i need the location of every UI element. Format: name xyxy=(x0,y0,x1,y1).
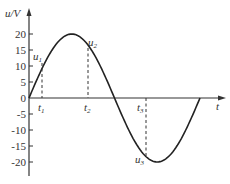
ytick-20: 20 xyxy=(15,28,27,40)
ytick-5: 5 xyxy=(21,76,27,88)
ytick-15: 15 xyxy=(15,44,27,56)
t1-label: t1 xyxy=(38,101,45,115)
origin-label: 0 xyxy=(21,92,27,104)
x-axis-arrow-icon xyxy=(218,96,226,101)
y-axis-label: u/V xyxy=(5,7,22,19)
guide-lines xyxy=(42,48,146,158)
ytick-neg10: -10 xyxy=(11,124,26,136)
t2-label: t2 xyxy=(84,101,91,115)
ytick-neg15: -15 xyxy=(11,140,26,152)
y-axis-arrow-icon xyxy=(27,8,32,16)
ytick-10: 10 xyxy=(15,60,27,72)
u1-label: u1 xyxy=(33,50,42,64)
t3-label: t3 xyxy=(137,101,144,115)
ytick-neg5: -5 xyxy=(17,108,27,120)
u2-label: u2 xyxy=(88,36,98,50)
u3-label: u3 xyxy=(135,153,145,167)
x-axis-label: t xyxy=(216,100,220,112)
ytick-neg20: -20 xyxy=(11,156,26,168)
sine-wave-chart: 20 15 10 5 0 -5 -10 -15 -20 u/V t u1 u2 … xyxy=(0,0,230,184)
